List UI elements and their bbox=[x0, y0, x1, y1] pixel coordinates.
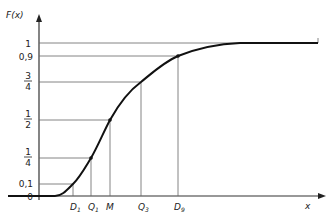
y-tick-0-9: 0,9 bbox=[19, 52, 34, 62]
svg-text:D9: D9 bbox=[174, 202, 185, 213]
cdf-curve bbox=[8, 43, 318, 196]
y-tick-1-2: 1 2 bbox=[24, 109, 32, 130]
y-tick-1: 1 bbox=[25, 39, 31, 49]
svg-text:Q3: Q3 bbox=[138, 202, 149, 213]
svg-text:4: 4 bbox=[25, 158, 31, 168]
quantile-points bbox=[89, 54, 180, 160]
x-tick-labels: D1 Q1 M Q3 D9 bbox=[70, 202, 185, 213]
horizontal-guides bbox=[39, 38, 318, 184]
y-axis-arrow-icon bbox=[36, 14, 42, 22]
y-tick-3-4: 3 4 bbox=[24, 71, 32, 92]
svg-text:2: 2 bbox=[25, 120, 31, 130]
y-tick-0-1: 0,1 bbox=[19, 179, 33, 189]
svg-text:4: 4 bbox=[25, 82, 31, 92]
cdf-chart: F(x) 1 0,9 3 4 1 2 1 4 0,1 0 D1 Q1 M Q3 … bbox=[0, 0, 331, 221]
y-axis-label: F(x) bbox=[6, 10, 24, 20]
x-axis-label: x bbox=[304, 201, 311, 211]
vertical-guides bbox=[73, 56, 178, 196]
svg-text:Q1: Q1 bbox=[88, 202, 99, 213]
svg-text:3: 3 bbox=[25, 71, 31, 81]
svg-text:M: M bbox=[106, 202, 114, 212]
y-tick-0: 0 bbox=[27, 192, 33, 202]
x-axis-arrow-icon bbox=[318, 193, 326, 199]
y-tick-1-4: 1 4 bbox=[24, 147, 32, 168]
svg-text:1: 1 bbox=[25, 147, 31, 157]
svg-text:1: 1 bbox=[25, 109, 31, 119]
svg-text:D1: D1 bbox=[70, 202, 81, 213]
